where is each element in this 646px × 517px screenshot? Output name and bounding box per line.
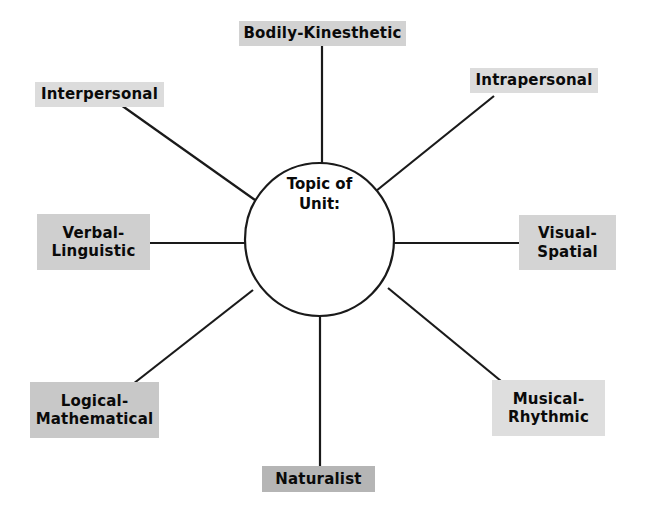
center-topic-line1: Topic of [287,175,352,195]
node-label-line2-logical-mathematical: Mathematical [36,410,154,428]
node-label-logical-mathematical[interactable]: Logical-Mathematical [30,382,159,438]
node-label-line1-interpersonal: Interpersonal [41,85,158,103]
node-label-verbal-linguistic[interactable]: Verbal-Linguistic [37,214,150,270]
center-topic-line2: Unit: [299,195,340,215]
node-label-line2-musical-rhythmic: Rhythmic [508,408,589,426]
node-label-musical-rhythmic[interactable]: Musical-Rhythmic [492,380,605,436]
center-topic-text: Topic of Unit: [245,175,394,215]
node-label-visual-spatial[interactable]: Visual-Spatial [519,215,616,270]
connector-line-logical-mathematical [133,290,253,384]
node-label-line2-visual-spatial: Spatial [537,243,598,261]
connector-line-interpersonal [121,105,255,200]
node-label-line1-musical-rhythmic: Musical- [513,390,585,408]
node-label-line1-logical-mathematical: Logical- [61,392,129,410]
node-label-intrapersonal[interactable]: Intrapersonal [470,68,598,93]
node-label-bodily-kinesthetic[interactable]: Bodily-Kinesthetic [239,21,406,46]
node-label-line1-verbal-linguistic: Verbal- [63,224,125,242]
diagram-canvas: Topic of Unit: Bodily-KinestheticIntrape… [0,0,646,517]
connector-line-musical-rhythmic [388,288,501,381]
node-label-line1-intrapersonal: Intrapersonal [475,71,592,89]
node-label-interpersonal[interactable]: Interpersonal [35,82,164,107]
node-label-line2-verbal-linguistic: Linguistic [51,242,135,260]
node-label-naturalist[interactable]: Naturalist [262,466,375,492]
node-label-line1-bodily-kinesthetic: Bodily-Kinesthetic [243,24,401,42]
node-label-line1-naturalist: Naturalist [275,470,361,488]
node-label-line1-visual-spatial: Visual- [538,224,597,242]
